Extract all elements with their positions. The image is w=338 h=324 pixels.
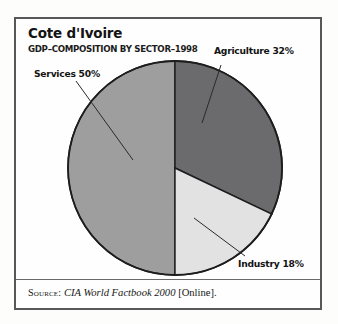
source-note: Source: CIA World Factbook 2000 [Online]…	[28, 287, 217, 298]
slice-label-industry: Industry 18%	[238, 258, 304, 269]
source-medium: [Online].	[178, 287, 217, 298]
pie-slice-services	[68, 61, 175, 275]
chart-frame: Cote d'Ivoire GDP–COMPOSITION BY SECTOR–…	[14, 17, 322, 310]
pie-chart-plot: Agriculture 32% Services 50% Industry 18…	[16, 19, 324, 279]
slice-label-services: Services 50%	[34, 68, 100, 79]
source-kicker: Source:	[28, 287, 61, 298]
source-work-title: CIA World Factbook 2000	[64, 287, 176, 298]
pie-chart-svg	[16, 19, 324, 279]
slice-label-agriculture: Agriculture 32%	[214, 45, 294, 56]
figure-panel: Cote d'Ivoire GDP–COMPOSITION BY SECTOR–…	[0, 0, 338, 324]
source-divider	[16, 279, 320, 280]
